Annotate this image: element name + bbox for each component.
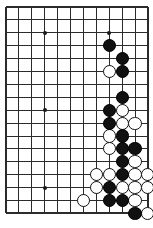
- white-stone[interactable]: [116, 181, 129, 194]
- white-stone[interactable]: [128, 155, 141, 168]
- black-stone[interactable]: [128, 142, 141, 155]
- white-stone[interactable]: [128, 168, 141, 181]
- black-stone[interactable]: [103, 104, 116, 117]
- white-stone[interactable]: [103, 142, 116, 155]
- white-stone[interactable]: [128, 181, 141, 194]
- black-stone[interactable]: [103, 39, 116, 52]
- white-stone[interactable]: [103, 129, 116, 142]
- grid-line-horizontal: [6, 45, 148, 46]
- grid-line-vertical: [57, 7, 58, 213]
- black-stone[interactable]: [116, 91, 129, 104]
- black-stone[interactable]: [116, 168, 129, 181]
- white-stone[interactable]: [141, 181, 153, 194]
- black-stone[interactable]: [116, 52, 129, 65]
- hoshi-star-point: [43, 31, 47, 35]
- white-stone[interactable]: [103, 168, 116, 181]
- black-stone[interactable]: [116, 65, 129, 78]
- grid-line-vertical: [70, 7, 71, 213]
- white-stone[interactable]: [90, 168, 103, 181]
- grid-line-vertical: [31, 7, 32, 213]
- grid-line-horizontal: [6, 32, 148, 33]
- white-stone[interactable]: [141, 168, 153, 181]
- grid-line-vertical: [83, 7, 84, 213]
- hoshi-star-point: [107, 31, 111, 35]
- black-stone[interactable]: [116, 194, 129, 207]
- white-stone[interactable]: [90, 181, 103, 194]
- black-stone[interactable]: [116, 142, 129, 155]
- hoshi-star-point: [43, 108, 47, 112]
- grid-line-vertical: [18, 7, 19, 213]
- white-stone[interactable]: [77, 194, 90, 207]
- grid-line-horizontal: [6, 6, 148, 8]
- black-stone[interactable]: [128, 207, 141, 220]
- white-stone[interactable]: [116, 117, 129, 130]
- grid-line-horizontal: [6, 19, 148, 20]
- white-stone[interactable]: [128, 194, 141, 207]
- white-stone[interactable]: [103, 65, 116, 78]
- goban-grid[interactable]: [0, 0, 153, 228]
- go-board-diagram: [0, 0, 153, 228]
- white-stone[interactable]: [141, 207, 153, 220]
- hoshi-star-point: [43, 186, 47, 190]
- black-stone[interactable]: [103, 181, 116, 194]
- black-stone[interactable]: [103, 194, 116, 207]
- grid-line-vertical: [5, 7, 7, 213]
- white-stone[interactable]: [116, 104, 129, 117]
- black-stone[interactable]: [116, 155, 129, 168]
- black-stone[interactable]: [103, 117, 116, 130]
- grid-line-horizontal: [6, 212, 148, 214]
- black-stone[interactable]: [116, 129, 129, 142]
- white-stone[interactable]: [128, 117, 141, 130]
- grid-line-horizontal: [6, 84, 148, 85]
